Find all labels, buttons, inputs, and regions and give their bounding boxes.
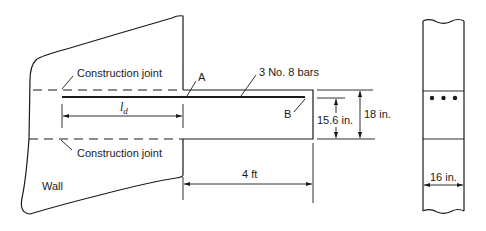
- depth-dimensions: 15.6 in. 18 in.: [316, 90, 391, 139]
- bars-label: 3 No. 8 bars: [259, 66, 319, 78]
- point-a-label: A: [198, 71, 206, 83]
- effective-depth-label: 15.6 in.: [317, 114, 353, 126]
- bar-dot-3: [453, 96, 457, 100]
- leader-construction-joint-bottom: [61, 140, 72, 150]
- leader-point-a: [187, 81, 196, 96]
- bar-dot-1: [430, 96, 434, 100]
- bar-dot-2: [441, 96, 445, 100]
- construction-joint-top-label: Construction joint: [77, 67, 162, 79]
- width-label: 16 in.: [430, 171, 457, 183]
- diagram-canvas: Construction joint Construction joint A …: [0, 0, 486, 231]
- leader-construction-joint-top: [62, 76, 73, 89]
- development-length-dimension: ld: [62, 100, 183, 128]
- length-dimension: 4 ft: [183, 143, 313, 203]
- wall-label: Wall: [42, 180, 63, 192]
- leader-point-b: [294, 99, 305, 112]
- construction-joint-bottom-label: Construction joint: [77, 147, 162, 159]
- point-b-label: B: [284, 108, 291, 120]
- cantilever-beam-diagram: Construction joint Construction joint A …: [0, 0, 486, 231]
- length-label: 4 ft: [242, 168, 257, 180]
- ld-label: ld: [120, 100, 128, 116]
- total-depth-label: 18 in.: [364, 108, 391, 120]
- leader-bars: [241, 75, 256, 96]
- cross-section: 16 in.: [423, 20, 464, 214]
